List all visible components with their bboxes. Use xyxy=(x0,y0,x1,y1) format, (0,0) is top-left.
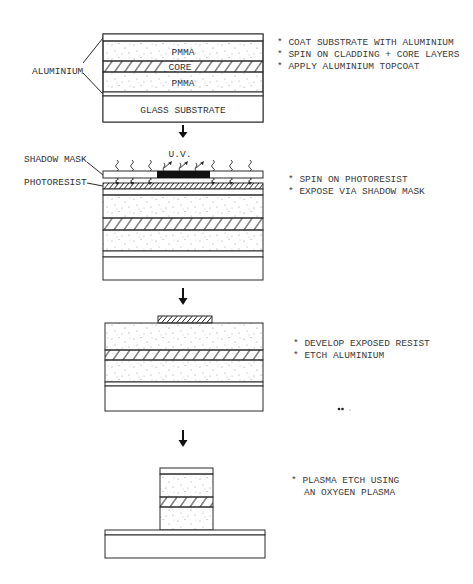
down-arrow-icon xyxy=(179,288,188,305)
stage-1-note-2: * SPIN ON CLADDING + CORE LAYERS xyxy=(277,49,460,60)
aluminium-leader-top xyxy=(83,38,103,63)
shadow-mask-opaque-region xyxy=(157,171,210,178)
aluminium-bottom-layer xyxy=(105,530,265,535)
stage-4-note-2: AN OXYGEN PLASMA xyxy=(304,487,396,498)
shadow-mask-leader xyxy=(87,162,103,175)
glass-substrate-layer xyxy=(103,257,263,280)
ridge-pmma-lower xyxy=(160,507,213,530)
down-arrow-icon xyxy=(179,430,188,447)
stray-mark xyxy=(338,408,351,411)
glass-substrate-layer xyxy=(105,386,263,411)
stage-1-stack: PMMA CORE PMMA GLASS SUBSTRATE ALUMINIUM xyxy=(32,34,263,122)
core-label: CORE xyxy=(169,62,192,73)
glass-substrate-layer xyxy=(105,535,265,558)
stage-1-note-1: * COAT SUBSTRATE WITH ALUMINIUM xyxy=(277,37,454,48)
shadow-mask-label: SHADOW MASK xyxy=(24,154,87,165)
glass-substrate-label: GLASS SUBSTRATE xyxy=(140,105,226,116)
aluminium-label: ALUMINIUM xyxy=(32,66,84,77)
pmma-bottom-label: PMMA xyxy=(172,78,195,89)
photoresist-layer xyxy=(103,183,263,189)
pmma-upper-layer xyxy=(105,323,263,350)
stage-3-note-2: * ETCH ALUMINIUM xyxy=(293,350,385,361)
pmma-top-label: PMMA xyxy=(172,47,195,58)
stage-4-stack xyxy=(105,468,265,558)
patterned-resist-block xyxy=(158,316,212,323)
ridge-core xyxy=(160,497,213,507)
down-arrow-icon xyxy=(179,125,188,138)
uv-label: U.V. xyxy=(169,149,192,160)
photoresist-label: PHOTORESIST xyxy=(24,177,87,188)
core-layer xyxy=(105,350,263,360)
fabrication-diagram: PMMA CORE PMMA GLASS SUBSTRATE ALUMINIUM… xyxy=(0,0,473,584)
stage-2-note-2: * EXPOSE VIA SHADOW MASK xyxy=(288,186,425,197)
aluminium-leader-bottom xyxy=(83,73,103,94)
core-layer xyxy=(103,218,263,230)
aluminium-bottom-layer xyxy=(103,92,263,96)
stage-4-note-1: * PLASMA ETCH USING xyxy=(291,475,400,486)
ridge-aluminium-cap xyxy=(160,468,213,474)
pmma-upper-layer xyxy=(103,195,263,218)
stage-3-stack xyxy=(105,316,263,411)
stage-1-note-3: * APPLY ALUMINIUM TOPCOAT xyxy=(277,61,420,72)
aluminium-topcoat-layer xyxy=(103,189,263,195)
aluminium-bottom-layer xyxy=(105,382,263,386)
stage-2-stack: U.V. xyxy=(24,149,263,280)
aluminium-bottom-layer xyxy=(103,251,263,257)
ridge-pmma-upper xyxy=(160,474,213,497)
photoresist-leader xyxy=(87,183,103,186)
stage-2-note-1: * SPIN ON PHOTORESIST xyxy=(288,174,408,185)
pmma-lower-layer xyxy=(103,230,263,251)
aluminium-topcoat-layer xyxy=(103,34,263,41)
pmma-lower-layer xyxy=(105,360,263,382)
stage-3-note-1: * DEVELOP EXPOSED RESIST xyxy=(293,338,430,349)
